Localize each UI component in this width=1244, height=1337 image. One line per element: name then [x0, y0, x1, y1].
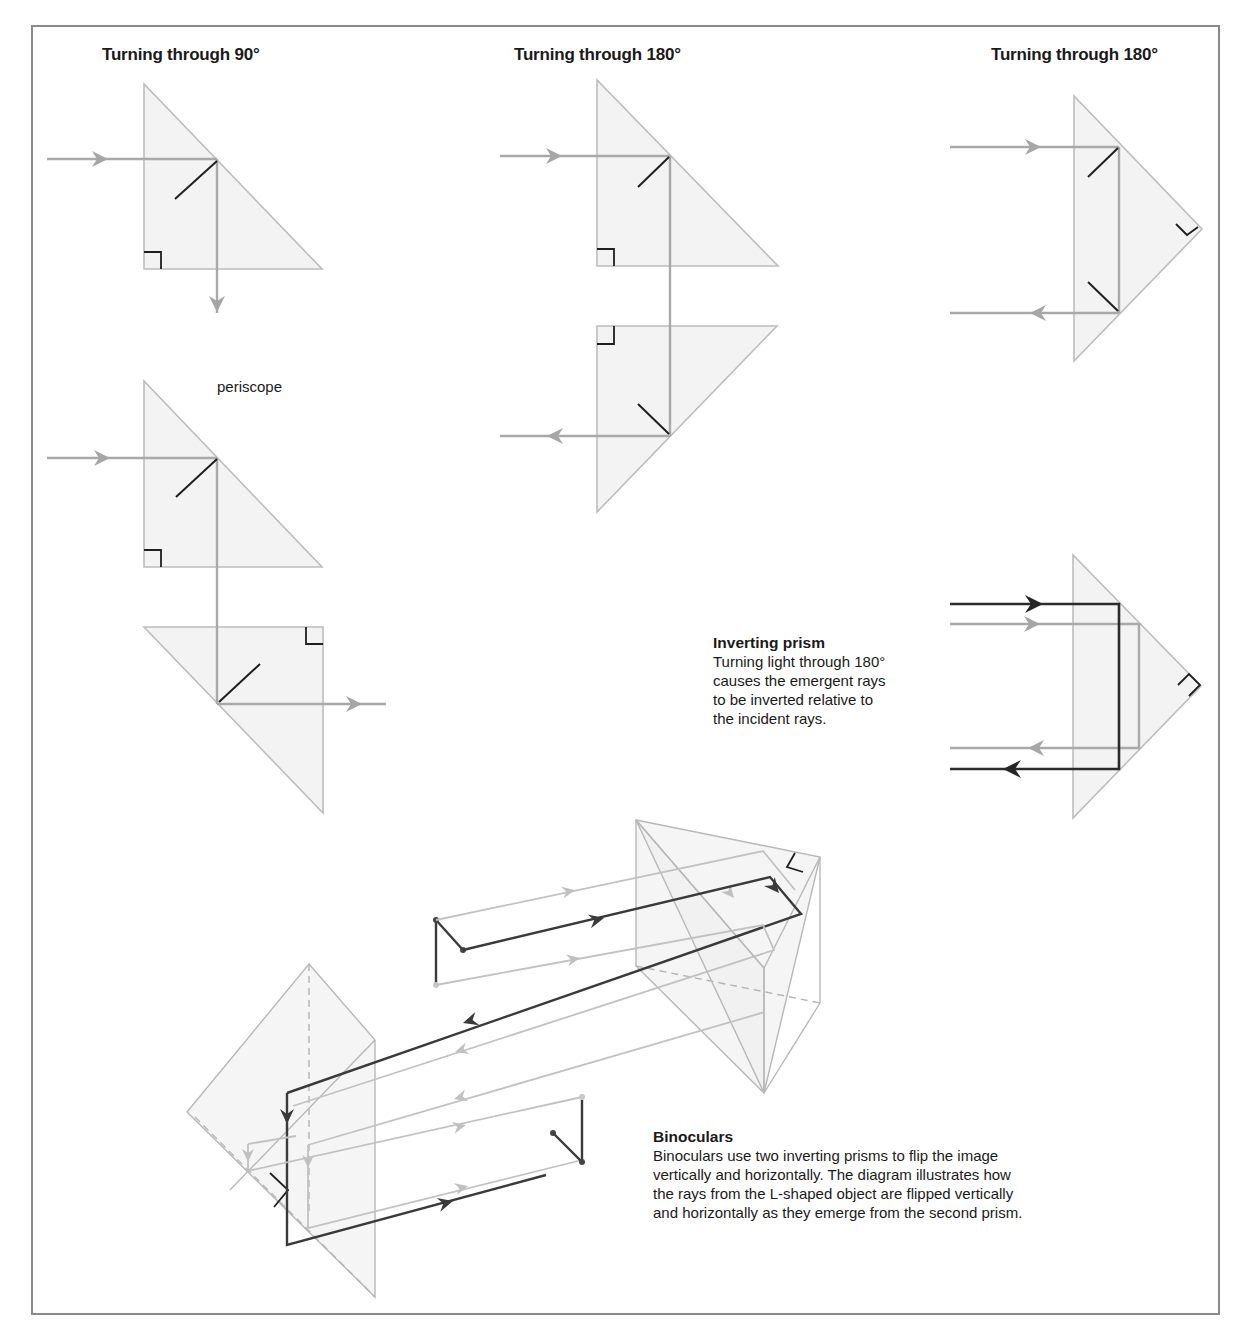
upper-prism	[597, 80, 778, 266]
prism-180-pair	[500, 80, 778, 512]
inverting-prism-title: Inverting prism	[713, 633, 886, 652]
prism-face	[187, 964, 375, 1297]
object-foot	[436, 920, 463, 950]
arrowhead-icon	[452, 1119, 467, 1134]
l-object-lower	[550, 1094, 585, 1165]
periscope-label: periscope	[217, 378, 282, 395]
periscope-lower-prism	[144, 627, 323, 813]
right-angle-prism	[144, 84, 322, 269]
inverting-prism-caption: Inverting prism Turning light through 18…	[713, 633, 886, 728]
prism-90-top	[47, 84, 322, 313]
object-point	[579, 1159, 585, 1165]
lower-prism	[597, 326, 777, 512]
arrowhead-icon	[454, 1180, 470, 1195]
heading-turning-180-pair: Turning through 180°	[514, 45, 681, 65]
object-point	[579, 1094, 585, 1100]
caption-line: the rays from the L-shaped object are fl…	[653, 1184, 1022, 1203]
binocular-prism-right	[636, 820, 820, 1093]
caption-line: vertically and horizontally. The diagram…	[653, 1165, 1022, 1184]
prism-180-single	[950, 96, 1202, 361]
caption-line: the incident rays.	[713, 709, 886, 728]
l-object-upper	[433, 917, 466, 988]
object-foot	[553, 1133, 582, 1162]
binoculars-diagram	[187, 820, 820, 1297]
object-point	[550, 1130, 556, 1136]
heading-turning-180-single: Turning through 180°	[991, 45, 1158, 65]
caption-line: to be inverted relative to	[713, 690, 886, 709]
periscope	[47, 381, 386, 813]
optics-diagram	[0, 0, 1244, 1337]
caption-line: causes the emergent rays	[713, 671, 886, 690]
binoculars-title: Binoculars	[653, 1127, 1022, 1146]
inverting-prism-diagram	[950, 555, 1201, 818]
caption-line: Turning light through 180°	[713, 652, 886, 671]
inverting-prism	[1073, 555, 1201, 818]
caption-line: Binoculars use two inverting prisms to f…	[653, 1146, 1022, 1165]
binocular-prism-left	[187, 964, 375, 1297]
caption-line: and horizontally as they emerge from the…	[653, 1203, 1022, 1222]
binoculars-caption: Binoculars Binoculars use two inverting …	[653, 1127, 1022, 1222]
heading-turning-90: Turning through 90°	[102, 45, 260, 65]
porro-prism	[1074, 96, 1202, 361]
periscope-upper-prism	[144, 381, 322, 567]
